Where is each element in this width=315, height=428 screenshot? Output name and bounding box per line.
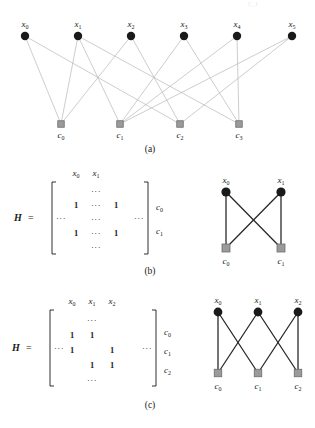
check-node-label: c3 bbox=[236, 130, 243, 141]
panel-a-caption: (a) bbox=[145, 144, 156, 155]
check-node bbox=[58, 121, 65, 128]
check-node-label: c1 bbox=[117, 130, 124, 141]
matrix-cell-ellipsis: ··· bbox=[91, 228, 101, 238]
panel-b-nodes: x0x1c0c1 bbox=[221, 175, 285, 267]
panel-c-degree-three-block: H=x0x1x2·········111111···c0c1c2 x0x1x2c… bbox=[0, 280, 315, 428]
variable-node-label: x4 bbox=[233, 19, 241, 30]
matrix-left-ellipsis: ··· bbox=[54, 343, 64, 353]
panel-c-parity-check-matrix: H=x0x1x2·········111111···c0c1c2 bbox=[11, 296, 171, 386]
matrix-cell-one: 1 bbox=[114, 200, 118, 210]
matrix-left-ellipsis: ··· bbox=[56, 213, 66, 223]
check-node bbox=[117, 121, 124, 128]
variable-node-label: x3 bbox=[180, 19, 188, 30]
graph-edge bbox=[61, 36, 131, 124]
variable-node-label: x2 bbox=[127, 19, 135, 30]
variable-node-label: x0 bbox=[21, 19, 29, 30]
check-node bbox=[236, 121, 243, 128]
variable-node bbox=[233, 32, 241, 40]
matrix-cell-one: 1 bbox=[74, 228, 78, 238]
matrix-row-label: c1 bbox=[164, 346, 171, 357]
matrix-cell-one: 1 bbox=[70, 345, 74, 355]
matrix-right-ellipsis: ··· bbox=[142, 343, 152, 353]
matrix-row-label: c0 bbox=[156, 202, 163, 213]
check-node-label: c2 bbox=[177, 130, 184, 141]
graph-edge bbox=[61, 36, 78, 124]
check-node-label: c0 bbox=[58, 130, 65, 141]
variable-node-label: x2 bbox=[294, 295, 302, 306]
faint-top-label: C_1 bbox=[248, 1, 258, 7]
panel-b-caption: (b) bbox=[144, 266, 155, 277]
check-node-label: c0 bbox=[223, 256, 230, 267]
matrix-column-header: x2 bbox=[108, 296, 116, 307]
graph-edge bbox=[120, 36, 237, 124]
matrix-cell-one: 1 bbox=[74, 200, 78, 210]
matrix-cell-ellipsis: ··· bbox=[87, 315, 97, 325]
variable-node-label: x5 bbox=[288, 19, 296, 30]
variable-node-label: x1 bbox=[74, 19, 82, 30]
matrix-column-header: x0 bbox=[72, 168, 80, 179]
matrix-cell-one: 1 bbox=[90, 360, 94, 370]
matrix-right-ellipsis: ··· bbox=[134, 213, 144, 223]
panel-c-nodes: x0x1x2c0c1c2 bbox=[214, 295, 303, 392]
variable-node bbox=[21, 32, 29, 40]
graph-edge bbox=[25, 36, 61, 124]
panel-b-degree-two-block: H=x0x1·········1···1···1···1···c0c1 x0x1… bbox=[0, 160, 315, 280]
graph-edge bbox=[120, 36, 184, 124]
matrix-row-label: c0 bbox=[164, 327, 171, 338]
panel-b-edges bbox=[226, 192, 281, 248]
matrix-equals-sign: = bbox=[28, 212, 34, 223]
panel-c-caption: (c) bbox=[145, 400, 156, 411]
panel-b-parity-check-matrix: H=x0x1·········1···1···1···1···c0c1 bbox=[13, 168, 163, 254]
matrix-cell-ellipsis: ··· bbox=[87, 375, 97, 385]
matrix-symbol-H: H bbox=[11, 342, 21, 353]
matrix-symbol-H: H bbox=[13, 212, 23, 223]
graph-edge bbox=[131, 36, 180, 124]
tanner-graph-figure: C_1 x0x1x2x3x4x5c0c1c2c3 (a) H=x0x1·····… bbox=[0, 0, 315, 428]
graph-edge bbox=[120, 36, 292, 124]
matrix-column-header: x1 bbox=[92, 168, 100, 179]
variable-node bbox=[221, 187, 230, 196]
check-node-label: c1 bbox=[255, 381, 262, 392]
variable-node bbox=[254, 308, 263, 317]
check-node bbox=[254, 369, 262, 377]
graph-edge bbox=[180, 36, 292, 124]
matrix-row-label: c1 bbox=[156, 226, 163, 237]
check-node-label: c2 bbox=[295, 381, 302, 392]
matrix-cell-one: 1 bbox=[70, 330, 74, 340]
matrix-cell-one: 1 bbox=[114, 228, 118, 238]
variable-node bbox=[180, 32, 188, 40]
check-node-label: c0 bbox=[215, 381, 222, 392]
matrix-cell-one: 1 bbox=[110, 345, 114, 355]
variable-node-label: x0 bbox=[214, 295, 222, 306]
matrix-cell-ellipsis: ··· bbox=[91, 186, 101, 196]
matrix-cell-one: 1 bbox=[110, 360, 114, 370]
matrix-right-bracket bbox=[152, 310, 156, 386]
variable-node bbox=[214, 308, 223, 317]
graph-edge bbox=[184, 36, 239, 124]
matrix-column-header: x1 bbox=[88, 296, 96, 307]
variable-node bbox=[294, 308, 303, 317]
check-node bbox=[277, 244, 285, 252]
matrix-column-header: x0 bbox=[68, 296, 76, 307]
matrix-right-bracket bbox=[144, 182, 148, 254]
variable-node-label: x0 bbox=[222, 175, 230, 186]
faint-top-text: C_1 bbox=[248, 1, 258, 7]
matrix-cell-ellipsis: ··· bbox=[91, 200, 101, 210]
check-node bbox=[177, 121, 184, 128]
check-node bbox=[222, 244, 230, 252]
matrix-cell-ellipsis: ··· bbox=[91, 214, 101, 224]
variable-node bbox=[276, 187, 285, 196]
panel-c-edges bbox=[218, 312, 298, 373]
variable-node-label: x1 bbox=[277, 175, 285, 186]
variable-node bbox=[74, 32, 82, 40]
matrix-cell-one: 1 bbox=[90, 330, 94, 340]
variable-node-label: x1 bbox=[254, 295, 262, 306]
check-node-label: c1 bbox=[278, 256, 285, 267]
graph-edge bbox=[237, 36, 239, 124]
graph-edge bbox=[78, 36, 120, 124]
check-node bbox=[214, 369, 222, 377]
panel-a-edges bbox=[25, 36, 292, 124]
variable-node bbox=[288, 32, 296, 40]
panel-a-full-tanner-graph: C_1 x0x1x2x3x4x5c0c1c2c3 (a) bbox=[0, 0, 315, 160]
check-node bbox=[294, 369, 302, 377]
